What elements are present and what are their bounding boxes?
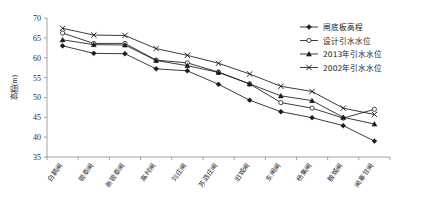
legend-item-2[interactable]: 设计引水水位 — [300, 36, 371, 46]
legend-label: 2013年引水水位 — [323, 49, 382, 59]
y-tick-label: 40 — [33, 133, 41, 142]
x-category-label: 刘庄闸 — [170, 161, 189, 183]
legend-item-3[interactable]: 2013年引水水位 — [300, 49, 382, 59]
legend-label: 2002年引水水位 — [323, 63, 382, 73]
legend-item-1[interactable]: 闸底板高程 — [300, 22, 363, 32]
legend-label: 闸底板高程 — [323, 22, 363, 32]
x-category-label: 高村闸 — [138, 161, 157, 183]
x-category-label: 殷城闸 — [325, 161, 344, 183]
chart-canvas: 3540455055606570 白鹤闸银泰闸新银泰闸高村闸刘庄闸苏泗庄闸旧城闸… — [0, 0, 423, 214]
x-category-label: 闸寨甘闸 — [353, 161, 376, 189]
y-axis-title: 高程(m) — [9, 75, 19, 100]
y-tick-label: 70 — [33, 14, 41, 23]
x-axis: 白鹤闸银泰闸新银泰闸高村闸刘庄闸苏泗庄闸旧城闸东闸闸杨集闸殷城闸闸寨甘闸 — [45, 157, 390, 189]
y-tick-label: 65 — [33, 34, 41, 43]
elevation-line-chart: 3540455055606570 白鹤闸银泰闸新银泰闸高村闸刘庄闸苏泗庄闸旧城闸… — [0, 0, 423, 214]
x-category-label: 苏泗庄闸 — [197, 161, 220, 189]
x-category-label: 杨集闸 — [294, 161, 313, 183]
x-category-label: 白鹤闸 — [45, 161, 64, 183]
y-tick-label: 50 — [33, 93, 41, 102]
y-axis: 3540455055606570 — [33, 14, 47, 162]
x-category-label: 东闸闸 — [263, 161, 282, 183]
y-tick-label: 45 — [33, 113, 41, 122]
legend-label: 设计引水水位 — [323, 36, 371, 46]
legend-item-4[interactable]: 2002年引水水位 — [300, 63, 382, 73]
y-tick-label: 60 — [33, 54, 41, 63]
y-tick-label: 35 — [33, 153, 41, 162]
x-category-label: 旧城闸 — [233, 162, 252, 184]
x-category-label: 银泰闸 — [76, 161, 95, 183]
x-category-label: 新银泰闸 — [103, 161, 126, 189]
chart-legend: 闸底板高程设计引水水位2013年引水水位2002年引水水位 — [300, 22, 382, 73]
y-tick-label: 55 — [33, 74, 41, 83]
